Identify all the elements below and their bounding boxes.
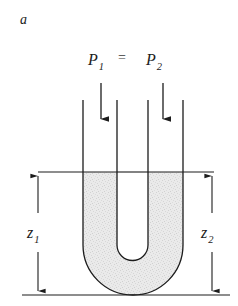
- left-height-label: z1: [26, 224, 39, 245]
- fluid-fill-shape: [83, 172, 183, 295]
- right-height-symbol: z: [200, 224, 208, 241]
- left-pressure-symbol: P: [87, 51, 98, 68]
- left-height-subscript: 1: [34, 234, 39, 245]
- tube-inner-wall: [117, 100, 148, 260]
- right-pressure-label: P2: [145, 51, 163, 72]
- equals-operator: =: [118, 50, 126, 65]
- right-height-subscript: 2: [208, 234, 214, 245]
- right-pressure-subscript: 2: [157, 61, 163, 72]
- left-pressure-label: P1: [87, 51, 104, 72]
- right-height-label: z2: [200, 224, 214, 245]
- panel-letter-label: a: [20, 12, 27, 27]
- left-pressure-subscript: 1: [99, 61, 104, 72]
- right-pressure-symbol: P: [145, 51, 156, 68]
- manometer-diagram-canvas: a P1 = P2 z1 z2: [0, 0, 238, 306]
- manometer-fluid: [83, 172, 183, 295]
- left-height-symbol: z: [26, 224, 34, 241]
- pressure-arrows-group: [101, 83, 163, 119]
- manometer-figure: a P1 = P2 z1 z2: [0, 0, 238, 306]
